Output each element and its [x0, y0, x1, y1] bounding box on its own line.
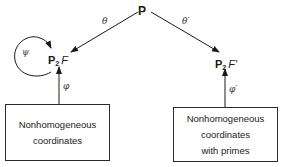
- node-p: P: [138, 5, 146, 17]
- box-line: Nonhomogeneous: [187, 111, 265, 127]
- box-line: coordinates: [201, 127, 250, 143]
- field-symbol: F′: [228, 58, 237, 70]
- psi-loop-arrow: [15, 37, 51, 76]
- dimension-subscript: 2: [55, 60, 59, 67]
- box-line: with primes: [201, 143, 249, 159]
- box-line: Nonhomogeneous: [19, 117, 97, 133]
- field-symbol: F: [61, 54, 68, 66]
- theta-prime-label: θ′: [182, 17, 189, 26]
- dimension-subscript: 2: [222, 64, 226, 71]
- phi-prime-label: φ′: [229, 85, 237, 94]
- box-line: coordinates: [33, 133, 82, 149]
- nonhomogeneous-coordinates-box: Nonhomogeneous coordinates: [5, 104, 110, 161]
- psi-label: ψ: [22, 48, 29, 57]
- nonhomogeneous-coordinates-primes-box: Nonhomogeneous coordinates with primes: [173, 107, 278, 162]
- phi-label: φ: [63, 82, 69, 91]
- node-p2-f-prime: P2F′: [215, 59, 237, 71]
- theta-label: θ: [102, 17, 107, 26]
- node-p2-f: P2F: [48, 55, 68, 67]
